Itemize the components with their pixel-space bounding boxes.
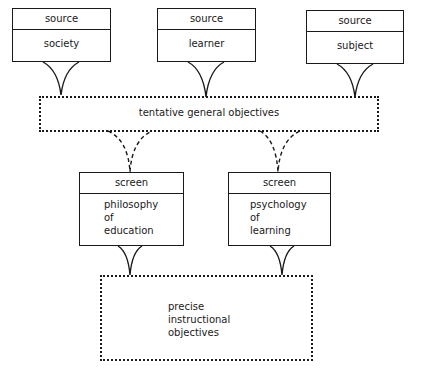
result-line: instructional bbox=[168, 313, 230, 326]
screen-line: philosophy bbox=[104, 198, 183, 211]
connector-learner bbox=[188, 62, 224, 97]
source-box-subject: source subject bbox=[306, 10, 404, 64]
precise-objectives-label: precise instructional objectives bbox=[168, 300, 230, 339]
screen-header: screen bbox=[229, 173, 330, 194]
connector-subject bbox=[337, 64, 373, 97]
screen-line: learning bbox=[250, 224, 330, 237]
source-label: society bbox=[13, 30, 110, 49]
screen-box-psychology: screen psychology of learning bbox=[228, 172, 331, 246]
connector-psychology bbox=[270, 246, 294, 275]
source-label: learner bbox=[158, 30, 255, 49]
screen-label: psychology of learning bbox=[229, 194, 330, 237]
precise-objectives-box: precise instructional objectives bbox=[100, 275, 313, 361]
connector-society bbox=[43, 62, 79, 95]
dashed-connector-philosophy bbox=[108, 131, 152, 172]
source-box-learner: source learner bbox=[157, 8, 256, 62]
source-label: subject bbox=[307, 32, 403, 51]
source-header: source bbox=[13, 9, 110, 30]
result-line: precise bbox=[168, 300, 230, 313]
source-header: source bbox=[307, 11, 403, 32]
screen-box-philosophy: screen philosophy of education bbox=[79, 172, 184, 246]
tentative-objectives-label: tentative general objectives bbox=[41, 107, 377, 118]
connector-philosophy bbox=[118, 246, 142, 275]
screen-line: education bbox=[104, 224, 183, 237]
screen-header: screen bbox=[80, 173, 183, 194]
result-line: objectives bbox=[168, 326, 230, 339]
screen-line: of bbox=[250, 211, 330, 224]
tentative-objectives-box: tentative general objectives bbox=[39, 96, 379, 132]
screen-line: of bbox=[104, 211, 183, 224]
screen-label: philosophy of education bbox=[80, 194, 183, 237]
dashed-connector-psychology bbox=[260, 131, 300, 172]
source-header: source bbox=[158, 9, 255, 30]
screen-line: psychology bbox=[250, 198, 330, 211]
source-box-society: source society bbox=[12, 8, 111, 62]
